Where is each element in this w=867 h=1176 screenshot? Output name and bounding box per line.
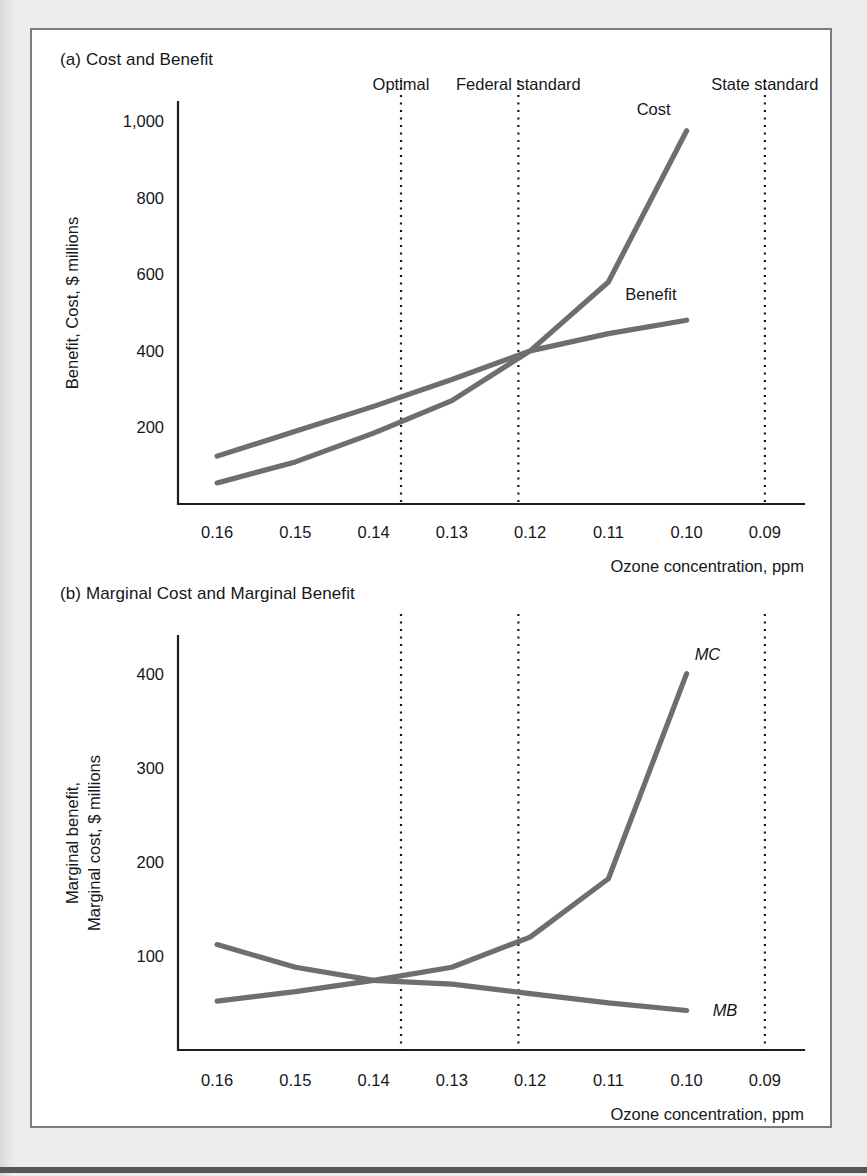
series-label-mb: MB [713,1001,738,1019]
x-tick-label: 0.09 [749,523,781,541]
x-tick-label: 0.11 [593,1071,624,1089]
panel-a-title: (a) Cost and Benefit [60,50,213,70]
x-tick-label: 0.13 [436,523,468,541]
x-tick-label: 0.14 [358,523,390,541]
x-tick-label: 0.09 [749,1071,781,1089]
y-tick-label: 1,000 [123,112,164,130]
x-tick-label: 0.14 [358,1071,390,1089]
y-axis-title: Marginal cost, $ millions [85,755,103,931]
page-edge-shading [0,0,14,1176]
chart-axes [178,102,804,504]
cost-benefit-chart: Benefit, Cost, $ millions2004006008001,0… [32,72,830,582]
series-line-cost [217,131,687,483]
x-tick-label: 0.11 [593,523,624,541]
y-tick-label: 200 [136,853,164,871]
x-tick-label: 0.10 [671,1071,703,1089]
x-tick-label: 0.16 [201,1071,233,1089]
guide-label-state-standard: State standard [711,75,818,93]
panel-b-title: (b) Marginal Cost and Marginal Benefit [60,584,355,604]
y-tick-label: 600 [136,265,164,283]
guide-label-optimal: Optimal [373,75,430,93]
y-axis-title: Benefit, Cost, $ millions [63,217,81,389]
series-line-mc [217,674,687,1001]
series-label-mc: MC [695,645,721,663]
series-line-mb [217,945,687,1011]
y-tick-label: 100 [136,947,164,965]
x-tick-label: 0.12 [514,1071,546,1089]
x-axis-title: Ozone concentration, ppm [610,1105,804,1123]
y-tick-label: 400 [136,665,164,683]
x-axis-title: Ozone concentration, ppm [610,557,804,575]
x-tick-label: 0.15 [279,1071,311,1089]
y-tick-label: 200 [136,418,164,436]
x-tick-label: 0.10 [671,523,703,541]
y-tick-label: 800 [136,189,164,207]
x-tick-label: 0.12 [514,523,546,541]
y-axis-title: Marginal benefit, [63,782,81,904]
x-tick-label: 0.13 [436,1071,468,1089]
series-label-cost: Cost [637,100,671,118]
guide-label-federal-standard: Federal standard [456,75,581,93]
y-tick-label: 400 [136,342,164,360]
page-bottom-rule [0,1167,867,1173]
y-tick-label: 300 [136,759,164,777]
x-tick-label: 0.15 [279,523,311,541]
figure-page: (a) Cost and Benefit Benefit, Cost, $ mi… [0,0,867,1176]
series-line-benefit [217,320,687,456]
series-label-benefit: Benefit [625,285,677,303]
x-tick-label: 0.16 [201,523,233,541]
marginal-cost-benefit-chart: Marginal benefit,Marginal cost, $ millio… [32,608,830,1128]
figure-panel: (a) Cost and Benefit Benefit, Cost, $ mi… [30,28,832,1128]
